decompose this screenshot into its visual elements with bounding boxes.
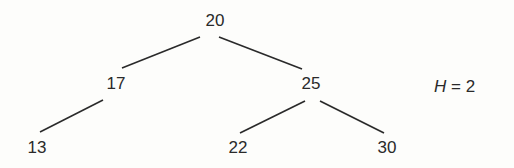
height-variable: H (434, 77, 446, 96)
edge-20-25 (219, 37, 302, 69)
edge-25-22 (240, 101, 305, 133)
edge-20-17 (122, 37, 200, 68)
tree-node-left: 17 (107, 75, 126, 92)
tree-node-right-right: 30 (378, 139, 397, 156)
height-equals: = (446, 77, 465, 96)
tree-node-left-left: 13 (28, 139, 47, 156)
tree-node-root: 20 (206, 12, 225, 29)
height-annotation: H = 2 (434, 78, 475, 95)
edge-25-30 (320, 101, 384, 133)
tree-node-right-left: 22 (229, 139, 248, 156)
height-value: 2 (466, 77, 475, 96)
edge-17-13 (40, 100, 103, 132)
tree-node-right: 25 (302, 75, 321, 92)
